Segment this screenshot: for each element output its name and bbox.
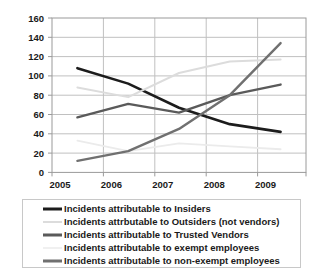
line-chart-figure: 160 140 120 100 80 60 40 20 0 xyxy=(0,0,323,278)
y-tick-label: 160 xyxy=(28,13,44,24)
x-axis-tick-labels: 2005 2006 2007 2008 2009 xyxy=(49,179,276,190)
y-tick-label: 0 xyxy=(39,167,44,178)
y-tick-label: 60 xyxy=(33,109,44,120)
legend-line-swatch-icon xyxy=(43,204,62,213)
y-tick-label: 120 xyxy=(28,51,44,62)
x-tick-label: 2005 xyxy=(49,179,71,190)
legend-item-label: Incidents attributable to Trusted Vendor… xyxy=(64,229,249,240)
legend-item: Incidents attrbutable to Outsiders (not … xyxy=(23,215,300,228)
legend-line-swatch-icon xyxy=(43,230,62,239)
y-tick-label: 100 xyxy=(28,70,44,81)
legend-line-swatch-icon xyxy=(43,217,62,226)
legend-item-label: Incidents attributable to Insiders xyxy=(64,203,211,214)
x-axis-tick-marks xyxy=(52,172,306,176)
y-tick-label: 20 xyxy=(33,148,44,159)
y-tick-label: 140 xyxy=(28,32,44,43)
x-tick-label: 2007 xyxy=(152,179,173,190)
chart-legend: Incidents attributable to Insiders Incid… xyxy=(22,199,301,268)
legend-line-swatch-icon xyxy=(43,256,62,265)
y-axis-tick-marks xyxy=(48,18,52,172)
legend-item-label: Incidents attrbutable to Outsiders (not … xyxy=(64,216,279,227)
chart-plot-svg: 160 140 120 100 80 60 40 20 0 xyxy=(8,10,315,192)
plot-area-wrapper: 160 140 120 100 80 60 40 20 0 xyxy=(8,10,315,192)
legend-item-label: Incidents attributable to non-exempt emp… xyxy=(64,255,280,266)
legend-item-label: Incidents attributable to exempt employe… xyxy=(64,242,259,253)
legend-item: Incidents attributable to Trusted Vendor… xyxy=(23,228,300,241)
x-tick-label: 2009 xyxy=(255,179,276,190)
x-tick-label: 2006 xyxy=(101,179,122,190)
legend-item: Incidents attributable to non-exempt emp… xyxy=(23,254,300,267)
legend-item: Incidents attributable to Insiders xyxy=(23,202,300,215)
x-tick-label: 2008 xyxy=(204,179,225,190)
legend-line-swatch-icon xyxy=(43,243,62,252)
y-tick-label: 40 xyxy=(33,128,44,139)
y-tick-label: 80 xyxy=(33,90,44,101)
legend-item: Incidents attributable to exempt employe… xyxy=(23,241,300,254)
y-axis-tick-labels: 160 140 120 100 80 60 40 20 0 xyxy=(28,13,44,178)
